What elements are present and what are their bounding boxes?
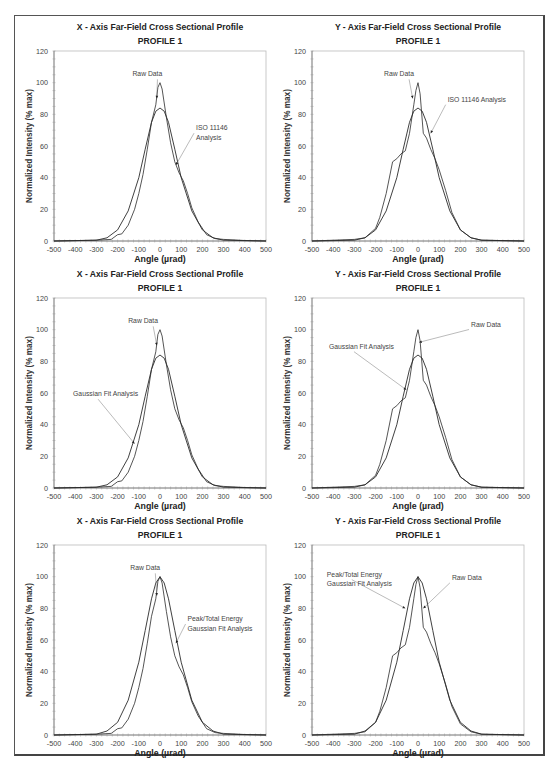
y-tick-label: 100 xyxy=(294,78,306,87)
y-axis-label: Normalized Intensity (% max) xyxy=(25,89,34,203)
x-tick-label: 300 xyxy=(218,245,230,254)
x-tick-label: -400 xyxy=(326,492,340,501)
plot-area xyxy=(54,545,266,735)
x-tick-label: 500 xyxy=(260,492,272,501)
annotation-label: Raw Data xyxy=(452,574,482,581)
y-tick-label: 100 xyxy=(36,78,48,87)
chart-panel-x-profile-gaussian: X - Axis Far-Field Cross Sectional Profi… xyxy=(14,265,276,510)
x-axis-label: Angle (µrad) xyxy=(134,748,186,758)
chart-subtitle: PROFILE 1 xyxy=(138,530,183,540)
x-tick-label: -200 xyxy=(368,739,382,748)
y-tick-label: 60 xyxy=(298,142,306,151)
x-tick-label: -100 xyxy=(390,492,404,501)
x-tick-label: 400 xyxy=(239,492,251,501)
x-tick-label: -500 xyxy=(47,739,61,748)
y-tick-label: 80 xyxy=(298,604,306,613)
y-tick-label: 40 xyxy=(298,667,306,676)
y-tick-label: 100 xyxy=(36,325,48,334)
x-tick-label: 100 xyxy=(175,245,187,254)
x-tick-label: 200 xyxy=(454,739,466,748)
chart-panel-y-profile-iso: Y - Axis Far-Field Cross Sectional Profi… xyxy=(272,18,534,263)
x-axis-label: Angle (µrad) xyxy=(134,501,186,511)
y-axis-label: Normalized Intensity (% max) xyxy=(25,336,34,450)
x-tick-label: -300 xyxy=(347,492,361,501)
annotation-label: ISO 11146 Analysis xyxy=(448,96,507,104)
x-tick-label: -400 xyxy=(68,739,82,748)
y-tick-label: 40 xyxy=(40,420,48,429)
x-tick-label: -500 xyxy=(305,492,319,501)
x-tick-label: -100 xyxy=(390,739,404,748)
x-tick-label: 400 xyxy=(497,245,509,254)
annotation-label: Raw Data xyxy=(130,564,160,571)
x-tick-label: -300 xyxy=(89,492,103,501)
chart-panel-y-profile-peak-energy: Y - Axis Far-Field Cross Sectional Profi… xyxy=(272,512,534,757)
chart-svg: X - Axis Far-Field Cross Sectional Profi… xyxy=(14,18,276,263)
y-tick-label: 120 xyxy=(36,47,48,56)
y-tick-label: 20 xyxy=(298,452,306,461)
annotation-label: ISO 11146 xyxy=(196,124,228,131)
x-tick-label: 500 xyxy=(518,245,530,254)
y-axis-label: Normalized Intensity (% max) xyxy=(283,89,292,203)
y-tick-label: 20 xyxy=(298,205,306,214)
x-tick-label: 400 xyxy=(497,739,509,748)
chart-svg: X - Axis Far-Field Cross Sectional Profi… xyxy=(14,265,276,510)
chart-svg: Y - Axis Far-Field Cross Sectional Profi… xyxy=(272,265,534,510)
x-tick-label: 100 xyxy=(433,492,445,501)
y-tick-label: 100 xyxy=(294,325,306,334)
plot-area xyxy=(312,51,524,241)
y-tick-label: 100 xyxy=(36,572,48,581)
chart-subtitle: PROFILE 1 xyxy=(396,283,441,293)
annotation-label: Analysis xyxy=(196,134,222,142)
annotation-label: Gaussian Fit Analysis xyxy=(329,343,395,351)
x-tick-label: 100 xyxy=(433,739,445,748)
x-tick-label: 400 xyxy=(239,739,251,748)
chart-title: X - Axis Far-Field Cross Sectional Profi… xyxy=(77,269,244,279)
chart-title: Y - Axis Far-Field Cross Sectional Profi… xyxy=(335,269,501,279)
x-tick-label: -100 xyxy=(390,245,404,254)
x-tick-label: -500 xyxy=(305,739,319,748)
chart-svg: Y - Axis Far-Field Cross Sectional Profi… xyxy=(272,18,534,263)
x-tick-label: 100 xyxy=(175,739,187,748)
annotation-label: Gaussian Fit Analysis xyxy=(73,390,139,398)
y-tick-label: 20 xyxy=(40,205,48,214)
y-tick-label: 60 xyxy=(40,636,48,645)
y-tick-label: 120 xyxy=(294,294,306,303)
x-tick-label: -500 xyxy=(305,245,319,254)
x-axis-label: Angle (µrad) xyxy=(392,254,444,264)
x-tick-label: -100 xyxy=(132,739,146,748)
chart-title: X - Axis Far-Field Cross Sectional Profi… xyxy=(77,516,244,526)
x-tick-label: 400 xyxy=(497,492,509,501)
x-tick-label: 300 xyxy=(476,492,488,501)
chart-subtitle: PROFILE 1 xyxy=(396,530,441,540)
x-tick-label: -200 xyxy=(110,492,124,501)
y-tick-label: 20 xyxy=(40,452,48,461)
chart-svg: Y - Axis Far-Field Cross Sectional Profi… xyxy=(272,512,534,757)
y-tick-label: 80 xyxy=(298,110,306,119)
annotation-label: Peak/Total Energy xyxy=(327,571,383,579)
x-tick-label: 300 xyxy=(476,739,488,748)
chart-svg: X - Axis Far-Field Cross Sectional Profi… xyxy=(14,512,276,757)
x-tick-label: 200 xyxy=(196,245,208,254)
x-tick-label: -400 xyxy=(68,245,82,254)
x-tick-label: -400 xyxy=(326,739,340,748)
y-tick-label: 120 xyxy=(294,47,306,56)
x-tick-label: 0 xyxy=(158,739,162,748)
chart-title: Y - Axis Far-Field Cross Sectional Profi… xyxy=(335,22,501,32)
x-tick-label: -200 xyxy=(368,492,382,501)
x-tick-label: -300 xyxy=(347,245,361,254)
x-tick-label: 0 xyxy=(416,245,420,254)
annotation-label: Raw Data xyxy=(384,70,414,77)
chart-panel-x-profile-peak-energy: X - Axis Far-Field Cross Sectional Profi… xyxy=(14,512,276,757)
y-tick-label: 80 xyxy=(298,357,306,366)
y-tick-label: 20 xyxy=(40,699,48,708)
x-tick-label: 0 xyxy=(416,739,420,748)
y-tick-label: 40 xyxy=(298,420,306,429)
x-tick-label: -400 xyxy=(326,245,340,254)
x-tick-label: 200 xyxy=(196,739,208,748)
x-tick-label: -500 xyxy=(47,245,61,254)
chart-subtitle: PROFILE 1 xyxy=(138,283,183,293)
y-axis-label: Normalized Intensity (% max) xyxy=(283,583,292,697)
x-tick-label: -300 xyxy=(89,245,103,254)
x-tick-label: 0 xyxy=(158,492,162,501)
y-tick-label: 100 xyxy=(294,572,306,581)
